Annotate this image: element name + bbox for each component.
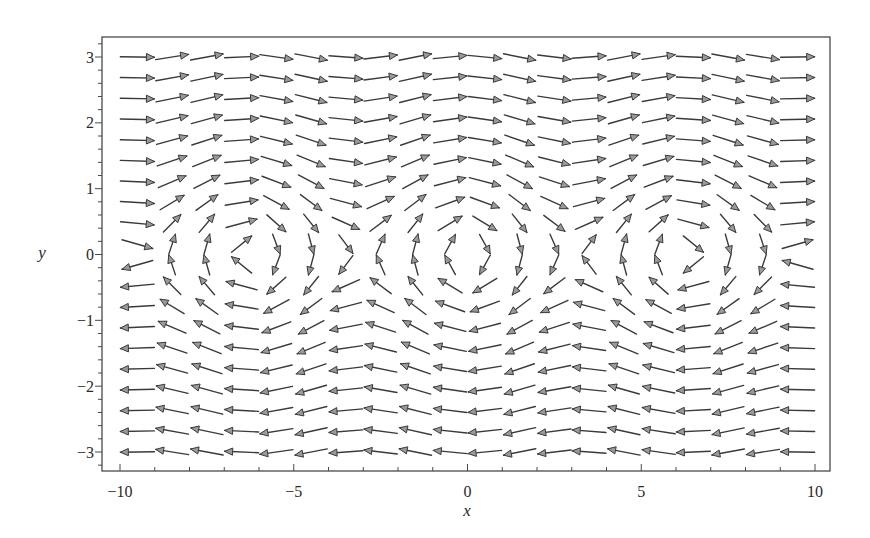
arrowhead-icon	[525, 160, 534, 167]
field-arrow	[232, 257, 252, 273]
field-arrow	[749, 176, 777, 188]
arrowhead-icon	[781, 302, 789, 309]
field-arrow	[370, 215, 391, 231]
arrowhead-icon	[459, 53, 467, 60]
arrowhead-icon	[781, 386, 789, 393]
arrowhead-icon	[146, 116, 154, 123]
field-arrow	[676, 116, 710, 123]
arrowhead-icon	[469, 326, 478, 333]
arrowhead-icon	[405, 299, 414, 307]
field-arrow	[225, 74, 259, 81]
field-arrow	[715, 321, 741, 334]
arrowhead-icon	[272, 266, 279, 275]
field-arrow	[225, 177, 258, 184]
arrowhead-icon	[329, 408, 337, 415]
arrowhead-icon	[146, 95, 154, 102]
arrowhead-icon	[766, 203, 775, 210]
arrowhead-icon	[433, 448, 441, 455]
arrowhead-icon	[643, 384, 652, 391]
arrowhead-icon	[225, 448, 233, 455]
field-arrow	[403, 175, 428, 189]
field-arrow	[572, 385, 606, 392]
arrowhead-icon	[632, 52, 641, 59]
arrowhead-icon	[120, 386, 128, 393]
arrowhead-icon	[401, 342, 410, 349]
arrowhead-icon	[700, 222, 709, 229]
field-arrow	[203, 255, 210, 275]
arrowhead-icon	[736, 76, 745, 83]
arrowhead-icon	[158, 321, 167, 328]
arrowhead-icon	[702, 75, 710, 82]
arrowhead-icon	[225, 323, 233, 330]
arrowhead-icon	[250, 115, 258, 122]
arrowhead-icon	[470, 306, 479, 313]
arrowhead-icon	[654, 255, 661, 264]
field-arrow	[678, 219, 709, 229]
field-arrow	[267, 215, 286, 232]
field-arrow	[225, 95, 259, 102]
field-arrow	[582, 256, 596, 275]
field-arrow	[539, 177, 569, 188]
field-arrow	[400, 384, 431, 394]
field-arrow	[364, 114, 397, 122]
field-arrow	[610, 342, 638, 354]
arrowhead-icon	[493, 159, 502, 166]
field-arrow	[226, 218, 257, 228]
arrowhead-icon	[329, 449, 337, 456]
field-arrow	[225, 136, 259, 143]
arrowhead-icon	[608, 447, 617, 454]
field-arrow	[724, 255, 731, 275]
arrowhead-icon	[643, 342, 652, 349]
vector-field-arrows	[120, 52, 814, 457]
field-arrow	[262, 176, 291, 187]
arrowhead-icon	[193, 342, 202, 349]
field-arrow	[541, 196, 568, 208]
arrowhead-icon	[282, 181, 291, 188]
field-arrow	[296, 135, 326, 146]
field-arrow	[163, 215, 180, 233]
arrowhead-icon	[330, 325, 339, 332]
arrowhead-icon	[339, 266, 347, 275]
field-arrow	[120, 179, 154, 186]
field-arrow	[538, 408, 571, 415]
arrowhead-icon	[702, 179, 710, 186]
arrowhead-icon	[782, 259, 791, 266]
field-arrow	[469, 323, 500, 333]
arrowhead-icon	[156, 405, 165, 412]
field-arrow	[781, 178, 815, 185]
x-tick-label: −5	[285, 483, 302, 500]
field-arrow	[260, 75, 293, 82]
arrowhead-icon	[626, 195, 635, 203]
arrowhead-icon	[663, 196, 672, 203]
arrowhead-icon	[596, 197, 605, 204]
field-arrow	[538, 75, 571, 82]
y-tick-label: −2	[77, 378, 94, 395]
arrowhead-icon	[781, 344, 789, 351]
field-arrow	[260, 386, 292, 395]
field-arrow	[433, 94, 466, 101]
field-arrow	[330, 324, 363, 332]
field-arrow	[157, 135, 188, 145]
arrowhead-icon	[598, 115, 606, 122]
arrowhead-icon	[156, 384, 165, 391]
arrowhead-icon	[318, 118, 327, 125]
field-arrow	[225, 427, 259, 434]
arrowhead-icon	[517, 246, 524, 255]
field-arrow	[748, 156, 778, 167]
arrowhead-icon	[214, 114, 223, 121]
field-arrow	[434, 385, 467, 392]
arrowhead-icon	[747, 368, 756, 375]
arrowhead-icon	[807, 178, 815, 185]
arrowhead-icon	[771, 55, 779, 62]
field-arrow	[445, 234, 456, 253]
field-arrow	[480, 234, 491, 253]
field-arrow	[538, 366, 570, 375]
field-arrow	[620, 255, 627, 275]
field-arrow	[506, 342, 534, 354]
arrowhead-icon	[434, 343, 443, 350]
x-tick-label: 5	[637, 483, 645, 500]
field-arrow	[192, 134, 222, 145]
arrowhead-icon	[468, 387, 476, 394]
field-arrow	[400, 114, 431, 124]
arrowhead-icon	[572, 448, 580, 455]
